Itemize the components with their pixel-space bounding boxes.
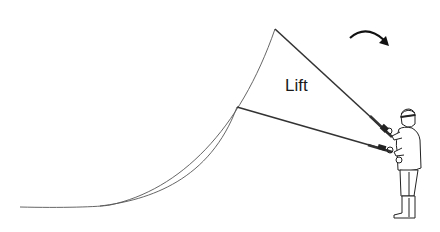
- clockwise-arrow-icon: [350, 31, 389, 46]
- lower-fly-line: [100, 107, 237, 206]
- angler-boots: [394, 196, 415, 218]
- angler-figure: [392, 109, 421, 218]
- lift-label: Lift: [285, 76, 308, 96]
- diagram-canvas: [0, 0, 440, 232]
- upper-fly-line: [20, 29, 275, 207]
